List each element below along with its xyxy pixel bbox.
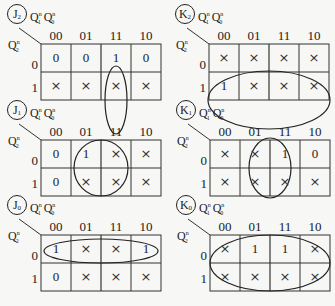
column-variables-label: Qn1 Qn0 (199, 199, 223, 220)
kmap-k0: K0Qn1 Qn0Qn20001111001×11××××× (0, 0, 335, 306)
kmap-cell: × (270, 263, 300, 291)
kmap-cell: × (300, 263, 330, 291)
column-header: 11 (270, 220, 300, 233)
row-header: 0 (195, 249, 207, 262)
function-label-k0: K0 (176, 195, 196, 215)
column-header: 00 (210, 220, 240, 233)
column-header: 10 (300, 220, 330, 233)
kmap-cell: × (240, 263, 270, 291)
row-header: 1 (195, 272, 207, 285)
row-variable-label: Qn2 (177, 227, 188, 248)
column-header: 01 (240, 220, 270, 233)
kmap-cell: × (300, 235, 330, 263)
kmap-cell: × (210, 263, 240, 291)
kmap-cell: × (210, 235, 240, 263)
kmap-cell: 1 (270, 235, 300, 263)
kmap-cell: 1 (240, 235, 270, 263)
